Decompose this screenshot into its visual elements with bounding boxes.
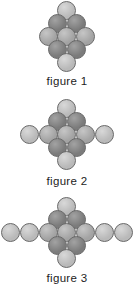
dot-mid-far-left [20,223,39,242]
dot-field-1 [0,0,134,74]
dot-bottom [57,151,76,170]
dot-field-3 [0,196,134,270]
figure-caption-2: figure 2 [0,175,134,187]
dot-mid-far-right [95,125,114,144]
figure-sequence-canvas: figure 1figure 2figure 3 [0,0,134,290]
dot-mid-outer-right [114,223,133,242]
dot-mid-far-right [95,223,114,242]
figure-caption-1: figure 1 [0,75,134,87]
dot-bottom [57,53,76,72]
dot-field-2 [0,98,134,172]
figure-caption-3: figure 3 [0,272,134,284]
dot-mid-far-left [20,125,39,144]
dot-mid-outer-left [1,223,20,242]
dot-bottom [57,249,76,268]
